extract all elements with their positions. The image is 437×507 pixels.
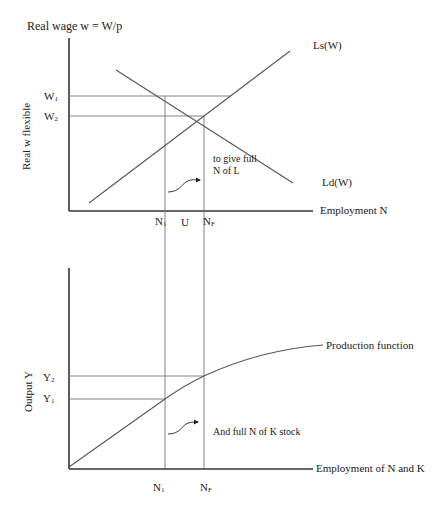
y2-label: Y2 — [43, 372, 54, 384]
n1-label-bottom: N1 — [153, 482, 164, 494]
note-full-employment-labour-1: to give full — [213, 154, 257, 164]
note-full-employment-labour-2: N of L — [213, 166, 240, 176]
bottom-x-label: Employment of N and K — [316, 463, 425, 474]
labour-demand-label: Ld(W) — [322, 177, 352, 188]
w1-label: W1 — [44, 91, 58, 103]
note-full-employment-capital: And full N of K stock — [213, 427, 301, 437]
y1-label: Y1 — [43, 393, 54, 405]
w2-label: W2 — [44, 111, 58, 123]
labour-supply-label: Ls(W) — [313, 40, 342, 51]
top-x-label: Employment N — [320, 205, 388, 216]
bottom-y-label: Output Y — [23, 371, 34, 412]
unemployment-label: U — [181, 217, 189, 228]
arrow-icon — [168, 180, 200, 192]
nf-label-bottom: NF — [200, 482, 212, 494]
nf-label: NF — [203, 216, 215, 228]
n1-label: N1 — [155, 216, 166, 228]
top-y-label: Real w flexible — [21, 103, 32, 170]
production-function-label: Production function — [326, 340, 414, 351]
arrow-icon — [168, 422, 198, 434]
top-chart-title: Real wage w = W/p — [27, 20, 122, 32]
production-function-curve — [69, 345, 323, 467]
labour-demand-curve — [116, 70, 293, 183]
